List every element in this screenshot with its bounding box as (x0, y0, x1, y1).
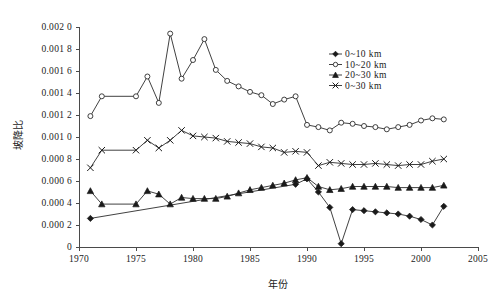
legend-label: 20~30 km (345, 70, 387, 80)
chart-container: 00.000 20.000 40.000 60.000 80.001 00.00… (0, 0, 502, 294)
x-tick-label: 1975 (126, 254, 146, 264)
data-point-circle (99, 94, 104, 99)
data-point-x (156, 145, 162, 151)
data-point-diamond (327, 204, 333, 210)
data-point-circle (248, 89, 253, 94)
x-tick-label: 1995 (354, 254, 374, 264)
data-point-circle (168, 31, 173, 36)
data-point-diamond (429, 222, 435, 228)
x-tick-label: 1990 (297, 254, 317, 264)
series-line (90, 178, 443, 204)
data-point-x (167, 137, 173, 143)
y-tick-label: 0.000 6 (41, 176, 72, 186)
data-point-diamond (407, 213, 413, 219)
data-point-diamond (441, 203, 447, 209)
series-line (90, 34, 443, 131)
y-tick-label: 0.001 6 (41, 66, 72, 76)
y-tick-label: 0 (67, 242, 72, 252)
data-point-circle (270, 102, 275, 107)
legend-item-20-30-km[interactable]: 20~30 km (329, 70, 387, 80)
x-tick-label: 2005 (468, 254, 488, 264)
data-point-x (178, 127, 184, 133)
data-point-circle (441, 117, 446, 122)
data-point-x (315, 162, 321, 168)
data-point-circle (339, 120, 344, 125)
x-tick-label: 1970 (69, 254, 89, 264)
data-point-circle (282, 97, 287, 102)
data-point-circle (134, 94, 139, 99)
data-point-circle (350, 121, 355, 126)
series-10-20-km (88, 31, 446, 133)
y-tick-label: 0.001 4 (41, 88, 72, 98)
x-axis-title: 年份 (268, 278, 288, 290)
x-tick-label: 1980 (183, 254, 203, 264)
data-point-circle (396, 125, 401, 130)
y-tick-label: 0.000 8 (41, 154, 72, 164)
chart-legend: 0~10 km10~20 km20~30 km0~30 km (329, 49, 387, 91)
data-point-circle (156, 100, 161, 105)
y-axis-title: 坡降比 (12, 120, 24, 150)
y-tick-label: 0.002 0 (41, 22, 72, 32)
data-point-circle (236, 84, 241, 89)
y-tick-label: 0.000 2 (41, 220, 72, 230)
data-point-circle (213, 67, 218, 72)
data-point-diamond (361, 208, 367, 214)
y-tick-label: 0.000 4 (41, 198, 72, 208)
x-tick-label: 1985 (240, 254, 260, 264)
data-point-triangle (441, 182, 447, 188)
data-point-diamond (338, 241, 344, 247)
data-point-circle (191, 58, 196, 63)
data-point-circle (419, 118, 424, 123)
data-point-circle (259, 93, 264, 98)
data-point-circle (305, 122, 310, 127)
data-point-x (144, 137, 150, 143)
data-point-circle (145, 74, 150, 79)
data-point-diamond (350, 207, 356, 213)
legend-label: 0~10 km (345, 49, 382, 59)
data-point-triangle (315, 183, 321, 189)
series-0-30-km (87, 127, 447, 171)
data-point-diamond (384, 210, 390, 216)
data-point-circle (225, 78, 230, 83)
data-point-circle (202, 37, 207, 42)
data-point-circle (179, 76, 184, 81)
data-point-circle (384, 127, 389, 132)
legend-item-10-20-km[interactable]: 10~20 km (329, 60, 387, 70)
data-point-circle (293, 94, 298, 99)
legend-marker-circle (333, 62, 337, 66)
data-point-circle (407, 122, 412, 127)
legend-label: 10~20 km (345, 60, 387, 70)
legend-label: 0~30 km (345, 81, 382, 91)
data-point-triangle (87, 188, 93, 194)
data-point-triangle (178, 194, 184, 200)
line-chart: 00.000 20.000 40.000 60.000 80.001 00.00… (0, 0, 502, 294)
legend-item-0-30-km[interactable]: 0~30 km (329, 81, 382, 91)
data-point-triangle (144, 188, 150, 194)
data-point-diamond (395, 211, 401, 217)
data-point-diamond (87, 215, 93, 221)
x-axis-tick-group: 19701975198019851990199520002005 (69, 247, 488, 264)
x-tick-label: 2000 (411, 254, 431, 264)
data-point-circle (373, 125, 378, 130)
data-point-circle (362, 124, 367, 129)
legend-marker-diamond (333, 51, 339, 57)
series-line (90, 179, 443, 244)
data-series-group (87, 31, 447, 247)
data-point-circle (430, 116, 435, 121)
y-tick-label: 0.001 2 (41, 110, 72, 120)
data-point-diamond (372, 209, 378, 215)
data-point-x (87, 165, 93, 171)
legend-item-0-10-km[interactable]: 0~10 km (329, 49, 382, 59)
data-point-circle (316, 125, 321, 130)
series-line (90, 130, 443, 167)
data-point-circle (88, 114, 93, 119)
series-20-30-km (87, 175, 447, 207)
y-tick-label: 0.001 8 (41, 44, 72, 54)
y-tick-label: 0.001 0 (41, 132, 72, 142)
data-point-diamond (418, 216, 424, 222)
y-axis-tick-group: 00.000 20.000 40.000 60.000 80.001 00.00… (41, 22, 79, 252)
data-point-circle (327, 128, 332, 133)
